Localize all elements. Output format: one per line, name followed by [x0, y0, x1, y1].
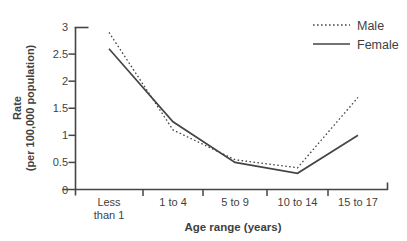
x-axis-title: Age range (years) [184, 221, 281, 233]
y-tick-label: 2 [62, 75, 68, 87]
x-category-label: 5 to 9 [221, 196, 249, 208]
female-line [109, 49, 358, 174]
male-line [109, 32, 358, 167]
line-chart: 00.511.522.53Lessthan 11 to 45 to 910 to… [0, 0, 407, 241]
x-category-label: 15 to 17 [338, 196, 378, 208]
y-tick-label: 1 [62, 129, 68, 141]
legend-male-label: Male [357, 19, 384, 33]
y-tick-label: 1.5 [53, 102, 68, 114]
x-category-label: than 1 [94, 209, 125, 221]
x-category-label: Less [97, 196, 121, 208]
y-tick-label: 0 [62, 184, 68, 196]
legend-female-label: Female [357, 38, 399, 52]
y-axis-title-line1: Rate [11, 96, 23, 120]
chart-figure: 00.511.522.53Lessthan 11 to 45 to 910 to… [0, 0, 407, 241]
x-category-label: 10 to 14 [278, 196, 318, 208]
x-category-label: 1 to 4 [159, 196, 187, 208]
y-tick-label: 3 [62, 21, 68, 33]
y-tick-label: 2.5 [53, 48, 68, 60]
y-tick-label: 0.5 [53, 156, 68, 168]
y-axis-title-line2: (per 100,000 population) [24, 44, 36, 171]
